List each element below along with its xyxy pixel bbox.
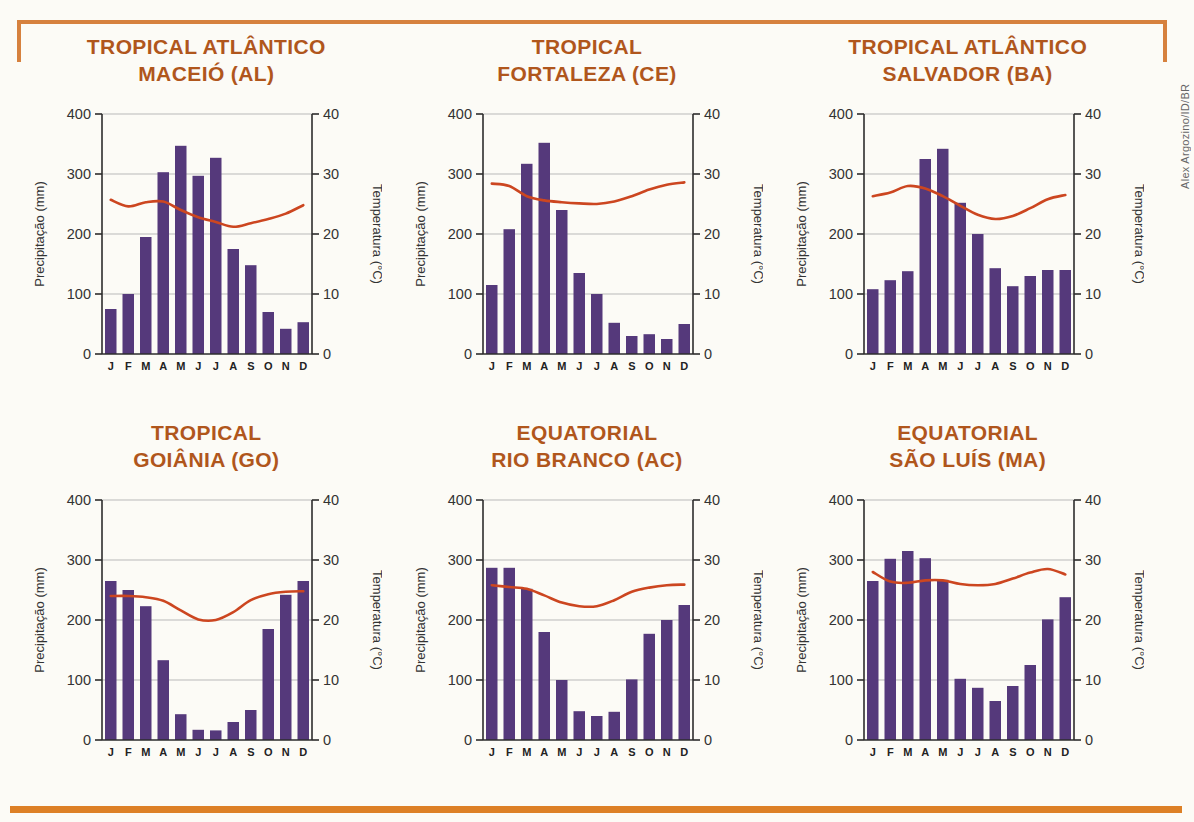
precipitation-bar (175, 146, 187, 354)
month-label: N (1043, 360, 1051, 372)
precipitation-bar (1042, 619, 1054, 740)
chart-title-city: MACEIÓ (AL) (87, 61, 326, 88)
month-label: F (125, 360, 132, 372)
precipitation-bar (919, 558, 931, 740)
month-labels: JFMAMJJASOND (108, 746, 308, 758)
month-label: J (576, 746, 582, 758)
month-label: F (506, 746, 513, 758)
precipitation-bar (245, 710, 257, 740)
month-label: N (282, 360, 290, 372)
month-labels: JFMAMJJASOND (108, 360, 308, 372)
month-labels: JFMAMJJASOND (489, 360, 689, 372)
chart-title: EQUATORIAL SÃO LUÍS (MA) (889, 418, 1046, 474)
month-labels: JFMAMJJASOND (489, 746, 689, 758)
month-label: J (576, 360, 582, 372)
left-axis-title: Precipitação (mm) (413, 181, 428, 286)
precipitation-bar (140, 606, 152, 740)
right-axis-title: Temperatura (°C) (1132, 570, 1144, 670)
precipitation-bars (867, 149, 1071, 354)
month-label: J (869, 746, 875, 758)
left-axis-tick-label: 100 (828, 286, 852, 302)
month-label: O (1026, 360, 1035, 372)
precipitation-bar (867, 289, 879, 354)
month-label: M (938, 360, 947, 372)
left-axis-title: Precipitação (mm) (32, 181, 47, 286)
month-label: M (557, 746, 566, 758)
month-label: J (489, 746, 495, 758)
chart-title-city: SALVADOR (BA) (848, 61, 1087, 88)
left-axis-tick-label: 400 (448, 106, 472, 122)
temperature-line (492, 585, 685, 607)
month-label: M (177, 360, 186, 372)
left-axis-tick-label: 200 (448, 612, 472, 628)
month-label: J (108, 746, 114, 758)
month-label: D (680, 360, 688, 372)
precipitation-bar (678, 605, 690, 740)
precipitation-bar (298, 581, 310, 740)
climograph-svg: 0010010200203003040040JFMAMJJASONDPrecip… (792, 92, 1144, 398)
bottom-border (10, 806, 1182, 813)
precipitation-bar (556, 210, 568, 354)
precipitation-bars (486, 568, 690, 740)
temperature-line (111, 200, 303, 227)
chart-title: EQUATORIAL RIO BRANCO (AC) (491, 418, 682, 474)
precipitation-bar (902, 551, 914, 740)
left-axis-tick-label: 300 (67, 552, 91, 568)
month-label: M (522, 746, 531, 758)
month-label: J (957, 360, 963, 372)
chart-title-climate: EQUATORIAL (491, 420, 682, 447)
chart-title-city: RIO BRANCO (AC) (491, 447, 682, 474)
month-label: J (594, 360, 600, 372)
chart-title: TROPICAL GOIÂNIA (GO) (133, 418, 279, 474)
chart-cell-goiania: TROPICAL GOIÂNIA (GO) 001001020020300304… (26, 418, 387, 788)
right-axis-tick-label: 30 (704, 166, 720, 182)
gridlines (864, 114, 1074, 294)
climograph-svg: 0010010200203003040040JFMAMJJASONDPrecip… (792, 478, 1144, 784)
left-axis-tick-label: 300 (67, 166, 91, 182)
right-axis-tick-label: 40 (323, 106, 339, 122)
month-label: A (610, 360, 618, 372)
left-axis-tick-label: 300 (828, 552, 852, 568)
left-axis-tick-label: 400 (828, 106, 852, 122)
month-label: J (213, 746, 219, 758)
image-credit: Alex Argozino/ID/BR (1179, 14, 1191, 189)
climograph-svg: 0010010200203003040040JFMAMJJASONDPrecip… (411, 92, 763, 398)
month-label: S (628, 746, 635, 758)
precipitation-bar (228, 249, 240, 354)
right-axis-tick-label: 10 (323, 672, 339, 688)
precipitation-bar (123, 294, 135, 354)
precipitation-bar (486, 285, 498, 354)
precipitation-bar (193, 176, 205, 354)
climograph-svg: 0010010200203003040040JFMAMJJASONDPrecip… (30, 92, 382, 398)
climograph-svg: 0010010200203003040040JFMAMJJASONDPrecip… (411, 478, 763, 784)
precipitation-bar (105, 309, 117, 354)
right-axis-tick-label: 30 (323, 552, 339, 568)
precipitation-bars (105, 581, 309, 740)
precipitation-bar (280, 329, 292, 354)
month-labels: JFMAMJJASOND (869, 360, 1069, 372)
left-axis-tick-label: 0 (845, 346, 853, 362)
right-axis-tick-label: 0 (1085, 732, 1093, 748)
month-label: A (991, 746, 999, 758)
month-label: A (160, 360, 168, 372)
right-axis-tick-label: 40 (704, 106, 720, 122)
month-label: J (869, 360, 875, 372)
month-label: A (610, 746, 618, 758)
precipitation-bars (867, 551, 1071, 740)
precipitation-bar (210, 730, 222, 740)
month-label: D (300, 360, 308, 372)
climograph-figure-page: Alex Argozino/ID/BR TROPICAL ATLÂNTICO M… (0, 0, 1194, 822)
precipitation-bar (1059, 597, 1071, 740)
precipitation-bar (608, 712, 620, 740)
precipitation-bar (937, 580, 949, 740)
right-axis-tick-label: 10 (704, 286, 720, 302)
right-axis-tick-label: 20 (323, 226, 339, 242)
right-axis-tick-label: 40 (323, 492, 339, 508)
precipitation-bar (661, 620, 673, 740)
left-axis-title: Precipitação (mm) (413, 567, 428, 672)
month-label: S (1009, 746, 1016, 758)
left-axis-tick-label: 100 (67, 286, 91, 302)
right-axis-tick-label: 10 (1085, 672, 1101, 688)
month-label: M (142, 360, 151, 372)
left-axis-tick-label: 0 (464, 346, 472, 362)
